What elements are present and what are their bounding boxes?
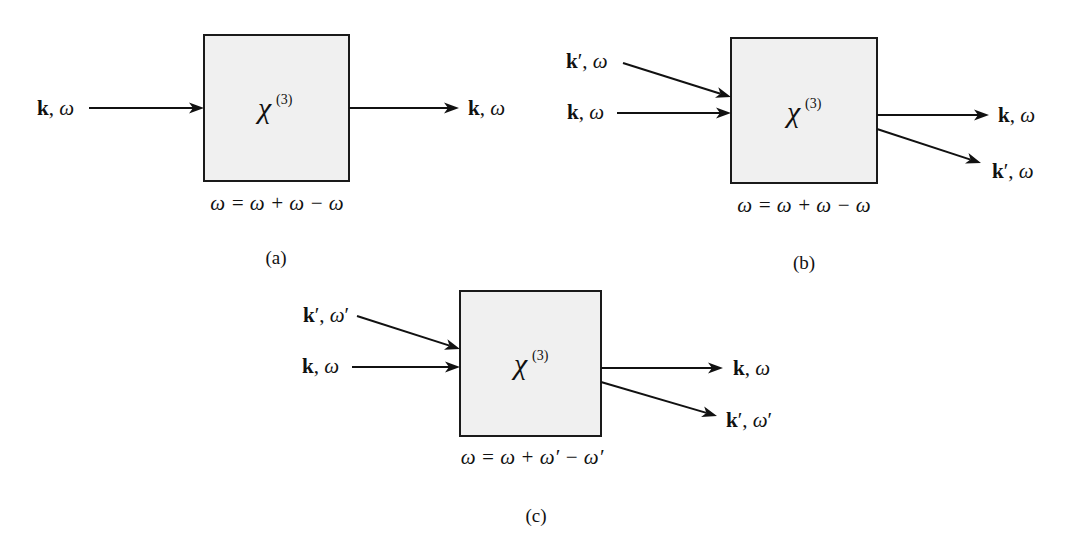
output-beam-label: k′, ω′: [726, 408, 772, 432]
frequency-symbol: ω: [589, 100, 604, 124]
susceptibility-symbol: χ: [255, 91, 272, 124]
separator: ,: [1008, 159, 1019, 183]
frequency-symbol: ω: [1019, 159, 1034, 183]
wavevector-symbol: k: [302, 354, 314, 378]
input-beam-label: k, ω: [567, 100, 604, 124]
output-beam-label: k′, ω: [992, 159, 1034, 183]
frequency-conservation-equation: ω = ω + ω − ω: [210, 191, 343, 215]
frequency-symbol: ω: [490, 96, 505, 120]
frequency-symbol: ω: [330, 303, 345, 327]
frequency-conservation-equation: ω = ω + ω − ω: [737, 193, 870, 217]
susceptibility-symbol: χ: [511, 347, 528, 380]
four-wave-mixing-diagram: χ(3)k, ωk, ωω = ω + ω − ω(a)χ(3)k′, ωk, …: [0, 0, 1068, 550]
separator: ,: [582, 49, 593, 73]
frequency-symbol: ω: [1020, 103, 1035, 127]
separator: ,: [745, 356, 756, 380]
wavevector-symbol: k: [992, 159, 1004, 183]
separator: ,: [49, 96, 60, 120]
frequency-symbol: ω: [593, 49, 608, 73]
frequency-symbol: ω: [755, 356, 770, 380]
frequency-symbol: ω: [324, 354, 339, 378]
panel-caption: (b): [793, 252, 815, 274]
panel-caption: (c): [525, 505, 546, 527]
input-beam-label: k, ω: [37, 96, 74, 120]
nonlinear-medium-box: [460, 291, 601, 436]
separator: ,: [480, 96, 491, 120]
susceptibility-order: (3): [532, 348, 549, 364]
separator: ,: [579, 100, 590, 124]
susceptibility-order: (3): [805, 96, 822, 112]
output-beam-label: k, ω: [733, 356, 770, 380]
prime-mark: ′: [768, 408, 773, 432]
wavevector-symbol: k: [303, 303, 315, 327]
wavevector-symbol: k: [566, 49, 578, 73]
input-beam-label: k, ω: [302, 354, 339, 378]
prime-mark: ′: [345, 303, 350, 327]
wavevector-symbol: k: [567, 100, 579, 124]
output-beam-label: k, ω: [998, 103, 1035, 127]
nonlinear-medium-box: [204, 35, 349, 181]
panel-caption: (a): [265, 247, 286, 269]
nonlinear-medium-box: [731, 38, 877, 183]
input-beam-label: k′, ω′: [303, 303, 349, 327]
wavevector-symbol: k: [468, 96, 480, 120]
separator: ,: [1010, 103, 1021, 127]
wavevector-symbol: k: [998, 103, 1010, 127]
wavevector-symbol: k: [733, 356, 745, 380]
wavevector-symbol: k: [726, 408, 738, 432]
input-beam-label: k′, ω: [566, 49, 608, 73]
output-beam-label: k, ω: [468, 96, 505, 120]
separator: ,: [742, 408, 753, 432]
susceptibility-order: (3): [276, 92, 293, 108]
wavevector-symbol: k: [37, 96, 49, 120]
separator: ,: [319, 303, 330, 327]
frequency-conservation-equation: ω = ω + ω′ − ω′: [461, 445, 604, 469]
frequency-symbol: ω: [753, 408, 768, 432]
susceptibility-symbol: χ: [784, 95, 801, 128]
separator: ,: [314, 354, 325, 378]
frequency-symbol: ω: [59, 96, 74, 120]
